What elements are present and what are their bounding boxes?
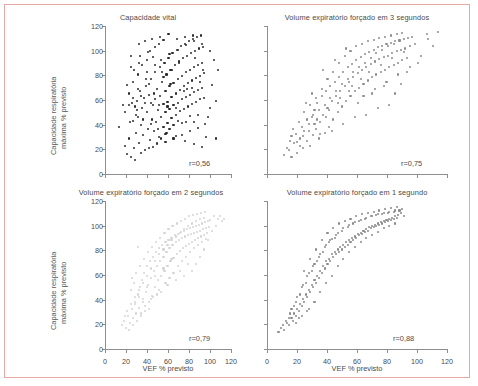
data-point [189,94,191,96]
data-point [303,130,305,132]
data-point [316,102,318,104]
data-point [417,62,419,64]
data-point [137,246,139,248]
data-point [331,100,333,102]
data-point [215,225,217,227]
data-point [401,208,403,210]
x-axis-title-bottom-left: VEF % previsto [105,364,231,373]
data-point [177,265,179,267]
data-point [387,55,389,57]
data-point [136,320,138,322]
data-point [165,73,167,75]
data-point [144,149,146,151]
data-point [128,104,130,106]
data-point [143,97,145,99]
data-point [322,69,324,71]
data-point [378,209,380,211]
data-point [146,265,148,267]
data-point [201,222,203,224]
data-point [206,232,208,234]
data-point [349,50,351,52]
data-point [147,251,149,253]
data-point [289,312,291,314]
data-point [150,123,152,125]
y-tick-label: 0 [75,170,103,179]
data-point [348,224,350,226]
data-point [139,265,141,267]
data-point [199,81,201,83]
data-point [370,63,372,65]
data-point [197,127,199,129]
data-point [136,109,138,111]
data-point [154,98,156,100]
data-point [377,46,379,48]
y-tick-mark [264,51,268,52]
data-point [191,79,193,81]
data-point [183,85,185,87]
data-point [221,220,223,222]
data-point [131,102,133,104]
data-point [308,308,310,310]
data-point [347,66,349,68]
data-point [217,218,219,220]
data-point [208,226,210,228]
data-point [126,310,128,312]
data-point [390,34,392,36]
data-point [338,222,340,224]
y-tick-mark [264,324,268,325]
data-point [215,137,217,139]
data-point [195,263,197,265]
data-point [351,63,353,65]
data-point [171,244,173,246]
data-point [202,46,204,48]
data-point [133,282,135,284]
data-point [298,310,300,312]
data-point [368,51,370,53]
data-point [160,116,162,118]
data-point [280,327,282,329]
data-point [204,211,206,213]
data-point [152,146,154,148]
data-point [332,71,334,73]
data-point [154,46,156,48]
data-point [190,52,192,54]
correlation-label-top-right: r=0,75 [401,159,422,168]
data-point [204,221,206,223]
data-point [172,137,174,139]
data-point [283,154,285,156]
data-point [149,260,151,262]
data-point [193,66,195,68]
data-point [360,219,362,221]
data-point [146,275,148,277]
data-point [324,267,326,269]
data-point [191,222,193,224]
data-point [341,248,343,250]
data-point [355,215,357,217]
data-point [172,104,174,106]
data-point [144,305,146,307]
data-point [193,232,195,234]
scatter-points-bottom-right [267,201,447,349]
data-point [167,239,169,241]
data-point [360,78,362,80]
data-point [315,97,317,99]
data-point [292,128,294,130]
data-point [192,214,194,216]
data-point [397,214,399,216]
data-point [385,81,387,83]
data-point [193,121,195,123]
data-point [159,36,161,38]
data-point [354,90,356,92]
data-point [290,135,292,137]
data-point [319,133,321,135]
data-point [341,105,343,107]
data-point [146,71,148,73]
data-point [313,109,315,111]
x-tick-mark [267,349,268,353]
correlation-label-bottom-right: r=0,88 [393,334,414,343]
data-point [175,279,177,281]
data-point [162,267,164,269]
data-point [377,213,379,215]
data-point [160,59,162,61]
data-point [338,62,340,64]
